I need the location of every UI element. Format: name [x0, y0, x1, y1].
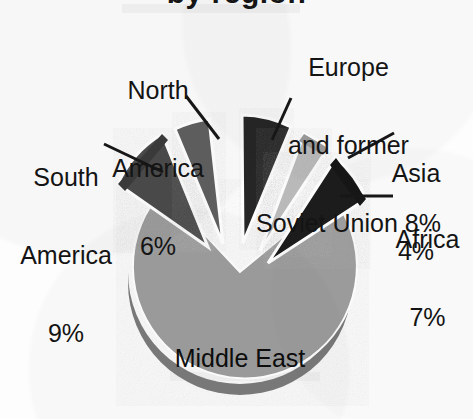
callout-africa-line1: Africa	[382, 226, 473, 252]
callout-south-america-line2: America	[2, 242, 130, 268]
slice-label-middle-east: Middle East 66%	[150, 293, 330, 419]
slice-label-middle-east-name: Middle East	[150, 345, 330, 371]
callout-africa: Africa 7%	[382, 174, 473, 382]
callout-europe-soviet-line1: Europe	[224, 54, 473, 80]
callout-south-america: South America 9%	[2, 112, 130, 398]
callout-africa-line2: 7%	[382, 304, 473, 330]
callout-north-america-line1: North	[92, 77, 224, 103]
callout-south-america-line3: 9%	[2, 320, 130, 346]
pie-chart-figure: by region	[0, 0, 473, 419]
callout-south-america-line1: South	[2, 164, 130, 190]
